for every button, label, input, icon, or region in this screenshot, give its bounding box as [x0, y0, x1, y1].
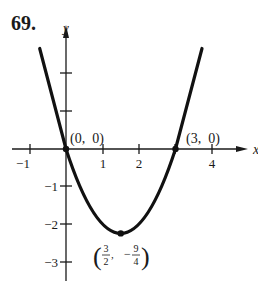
svg-text:,: ,	[111, 248, 114, 260]
svg-text:2: 2	[104, 256, 109, 267]
svg-text:(: (	[93, 242, 102, 271]
x-tick-label: 1	[100, 156, 107, 171]
point-three-zero	[172, 146, 178, 152]
x-tick-label: 4	[209, 156, 216, 171]
graph: x −1 1 2 4 y −1 −2 −3 (0, 0) (3, 0) ( 3 …	[0, 0, 258, 281]
point-origin	[63, 146, 69, 152]
x-tick-label: 2	[136, 156, 143, 171]
svg-text:−: −	[124, 247, 131, 261]
parabola-curve	[40, 49, 202, 234]
svg-text:9: 9	[134, 243, 139, 254]
y-tick-label: −3	[44, 255, 58, 270]
point-vertex	[118, 230, 124, 236]
x-tick-label: −1	[16, 156, 30, 171]
label-three-zero: (3, 0)	[186, 131, 220, 147]
svg-text:): )	[141, 242, 150, 271]
y-tick-label: −2	[44, 217, 58, 232]
y-axis-label: y	[61, 20, 69, 35]
label-origin: (0, 0)	[70, 131, 104, 147]
x-axis-label: x	[252, 142, 258, 157]
label-vertex: ( 3 2 , − 9 4 )	[93, 242, 150, 271]
x-axis: x −1 1 2 4	[12, 142, 258, 171]
x-axis-arrow-icon	[236, 146, 248, 152]
svg-text:4: 4	[134, 256, 139, 267]
y-tick-label: −1	[44, 179, 58, 194]
svg-text:3: 3	[104, 243, 109, 254]
